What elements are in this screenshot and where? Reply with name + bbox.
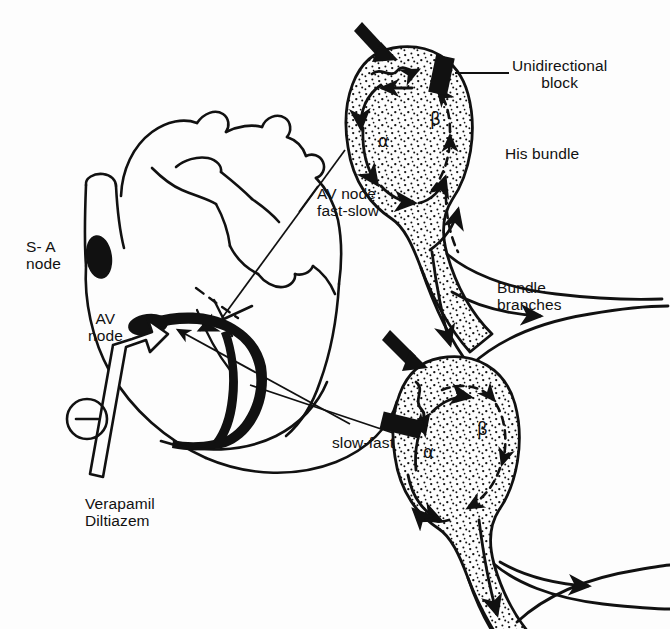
av-node-fast-slow-callout: AV node fast-slow — [317, 185, 379, 220]
drug-label: Verapamil Diltiazem — [85, 495, 155, 530]
beta-pathway-label-lower: β — [477, 420, 488, 439]
stimulus-arrow-lower — [382, 330, 428, 371]
av-node-label: AV node — [88, 310, 123, 345]
figure-canvas: S- A node AV node Verapamil Diltiazem AV… — [0, 0, 670, 629]
alpha-pathway-label-lower: α — [423, 443, 434, 462]
upper-circuit-diagram — [346, 22, 668, 366]
bundle-branches-label: Bundle branches — [497, 279, 562, 314]
unidirectional-block-label: Unidirectional block — [512, 57, 607, 92]
lv-endocardium — [161, 382, 327, 450]
sa-node-marker — [83, 233, 115, 280]
stimulus-arrow-upper — [354, 22, 398, 62]
alpha-pathway-label-upper: α — [378, 132, 389, 151]
beta-pathway-label-upper: β — [430, 110, 441, 129]
lower-circuit-diagram — [379, 330, 670, 629]
slow-fast-callout: slow-fast — [332, 434, 394, 451]
leader-tick-upper — [299, 186, 318, 212]
leader-line-upper — [222, 150, 345, 318]
his-bundle-label: His bundle — [505, 145, 579, 162]
sa-node-label: S- A node — [26, 238, 61, 273]
